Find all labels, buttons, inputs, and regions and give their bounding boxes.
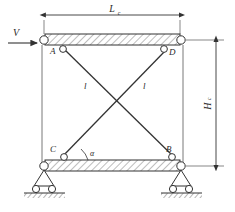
brace-left-label: l: [84, 81, 87, 91]
right-roller-support: [161, 170, 202, 198]
joint-A-label: A: [49, 46, 56, 56]
right-ground-hatch: [161, 193, 202, 198]
top-beam-body: [45, 34, 180, 45]
lateral-load-indicator: V: [8, 27, 37, 43]
height-label-subscript: c: [206, 97, 212, 100]
height-dimension: H c: [186, 40, 224, 166]
left-ground-hatch: [24, 193, 65, 198]
brace-D-to-C: l: [62, 50, 166, 157]
corner-pin-top-left: [40, 36, 48, 44]
right-support-roller-1: [169, 185, 176, 192]
brace-right-label: l: [143, 81, 146, 91]
load-label: V: [13, 27, 21, 38]
width-dimension: L c: [44, 3, 180, 34]
angle-arc: [81, 149, 88, 160]
corner-pin-bottom-left: [40, 162, 48, 170]
joint-B: B: [166, 144, 175, 160]
joint-D-label: D: [168, 47, 176, 57]
right-support-triangle: [171, 170, 191, 186]
joint-C-label: C: [50, 144, 57, 154]
brace-A-to-B: l: [65, 50, 174, 157]
joint-D: D: [161, 46, 176, 57]
joint-C: C: [50, 144, 67, 160]
joint-B-label: B: [166, 144, 172, 154]
joint-A-pin: [60, 46, 67, 53]
corner-pin-top-right: [177, 36, 185, 44]
angle-label: α: [90, 149, 95, 158]
top-beam: [45, 34, 180, 45]
joint-D-pin: [161, 46, 168, 53]
joint-C-pin: [61, 154, 68, 161]
width-label: L: [108, 3, 115, 14]
joint-A: A: [49, 46, 66, 56]
joint-B-pin: [169, 154, 176, 161]
bottom-beam: [45, 160, 180, 171]
left-roller-support: [24, 170, 65, 198]
left-support-roller-1: [32, 185, 39, 192]
left-support-roller-2: [48, 185, 55, 192]
angle-alpha: α: [81, 149, 95, 160]
height-label: H: [202, 102, 213, 111]
left-support-triangle: [34, 170, 54, 186]
right-support-roller-2: [185, 185, 192, 192]
figure-canvas: L c V l l A D C B: [0, 0, 235, 212]
bottom-beam-body: [45, 160, 180, 171]
width-label-subscript: c: [118, 10, 121, 16]
brace-left-line: [65, 50, 174, 157]
brace-right-line: [62, 50, 166, 157]
frame-diagram-svg: L c V l l A D C B: [0, 0, 235, 212]
corner-pin-bottom-right: [177, 162, 185, 170]
